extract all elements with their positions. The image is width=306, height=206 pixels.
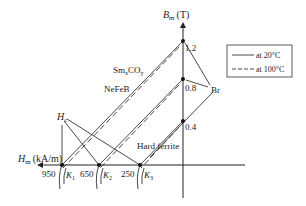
y-tick-1.2: 1.2 [185,43,196,53]
hard-ferrite-label: Hard ferrite [137,141,179,151]
smco-label: SmxCOy [113,65,144,76]
x-tick-950: 950 [42,169,56,179]
k1-tail [59,165,66,189]
bh-diagram: Bm(T) Hm(kA/m) 1.2 0.8 0.4 950 650 250 K… [0,0,306,206]
legend: at 20°C at 100°C [227,45,292,77]
x-tick-250: 250 [121,169,135,179]
k2-tail [96,165,103,189]
k3-tail [137,165,144,189]
nefeb-line-100c [100,85,179,168]
point-0.8 [181,77,185,81]
y-tick-0.8: 0.8 [185,83,197,93]
k1-label: K1 [65,170,75,181]
point-k2 [97,163,101,167]
point-k1 [60,163,64,167]
legend-solid-label: at 20°C [256,51,280,60]
br-label: Br [211,85,220,95]
k3-label: K3 [143,170,153,181]
x-tick-650: 650 [80,169,94,179]
x-axis-label: Hm(kA/m) [17,153,62,166]
nefeb-label: NeFeB [104,84,130,94]
y-axis-label: Bm(T) [163,9,189,22]
hc-label: Hc [56,111,67,124]
point-k3 [138,163,142,167]
hc-leader-k2 [64,121,99,165]
y-tick-0.4: 0.4 [185,122,197,132]
k2-label: K2 [102,170,112,181]
legend-dashed-label: at 100°C [256,65,284,74]
